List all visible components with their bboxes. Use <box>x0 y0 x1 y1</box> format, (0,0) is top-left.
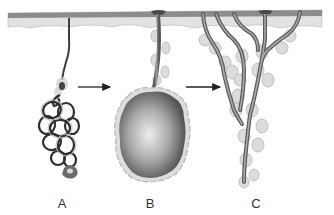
epidermis-layer <box>8 10 322 28</box>
stage-label-a: A <box>52 196 72 211</box>
stage-label-c: C <box>246 196 266 211</box>
stage-label-b: B <box>140 196 160 211</box>
stage-c-branched-gland <box>199 10 300 188</box>
stage-a-coiled-gland <box>37 18 79 179</box>
gland-development-diagram <box>0 0 334 215</box>
stage-b-saccular-gland <box>115 10 190 182</box>
